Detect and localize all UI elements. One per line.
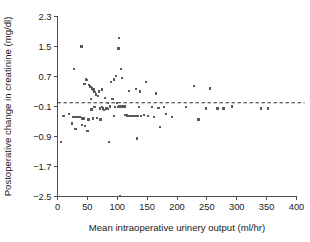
data-point (193, 85, 195, 87)
data-point (98, 90, 100, 92)
y-tick-label: −0.1 (33, 102, 51, 112)
data-point (107, 108, 109, 110)
data-point (90, 108, 92, 110)
data-point (90, 98, 92, 100)
data-point (145, 81, 147, 83)
data-point (84, 125, 86, 127)
data-point (135, 88, 137, 90)
x-tick-label: 300 (229, 202, 245, 212)
y-tick-label: 1.5 (39, 42, 52, 52)
data-point (231, 105, 233, 107)
data-point (68, 113, 70, 115)
x-tick-label: 50 (82, 202, 92, 212)
data-point (116, 102, 118, 104)
data-point (267, 107, 269, 109)
data-point (185, 106, 187, 108)
data-point (138, 106, 140, 108)
x-tick-label: 350 (259, 202, 275, 212)
data-point (118, 37, 120, 39)
data-point (155, 92, 157, 94)
data-point (87, 118, 89, 120)
data-point (113, 115, 115, 117)
data-point (143, 114, 145, 116)
data-point (136, 137, 138, 139)
data-point (123, 105, 125, 107)
data-point (109, 105, 111, 107)
data-point (86, 130, 88, 132)
x-tick-label: 250 (199, 202, 215, 212)
data-point (147, 115, 149, 117)
data-point (83, 117, 85, 119)
y-tick-label: 0.7 (39, 72, 52, 82)
data-point (101, 88, 103, 90)
data-point (86, 79, 88, 81)
data-point (139, 90, 141, 92)
data-point (222, 107, 224, 109)
data-point (117, 47, 119, 49)
data-point (80, 45, 82, 47)
data-point (92, 117, 94, 119)
data-point (108, 141, 110, 143)
data-point (153, 116, 155, 118)
data-point (99, 118, 101, 120)
data-point (140, 115, 142, 117)
data-point (79, 116, 81, 118)
data-point (113, 78, 115, 80)
data-point (71, 122, 73, 124)
data-point (159, 126, 161, 128)
chart-labels: −2.5−1.7−0.9−0.10.71.52.3050100150200250… (2, 12, 304, 233)
data-point (120, 68, 122, 70)
data-point (74, 128, 76, 130)
data-point (171, 116, 173, 118)
x-axis-title: Mean intraoperative urinery output (ml/h… (89, 222, 266, 233)
scatter-chart-figure: −2.5−1.7−0.9−0.10.71.52.3050100150200250… (0, 0, 310, 242)
data-point (151, 106, 153, 108)
data-point (260, 107, 262, 109)
x-tick-label: 200 (169, 202, 185, 212)
data-point (114, 106, 116, 108)
x-tick-label: 400 (289, 202, 305, 212)
data-point (110, 81, 112, 83)
data-point (93, 106, 95, 108)
chart-canvas: −2.5−1.7−0.9−0.10.71.52.3050100150200250… (0, 0, 310, 242)
data-point (94, 91, 96, 93)
data-point (60, 141, 62, 143)
data-point (97, 95, 99, 97)
data-point (205, 107, 207, 109)
y-tick-label: −2.5 (33, 192, 51, 202)
data-point (119, 195, 121, 197)
data-point (73, 68, 75, 70)
data-points-layer (60, 37, 269, 197)
data-point (216, 107, 218, 109)
data-point (165, 113, 167, 115)
data-point (62, 115, 64, 117)
data-point (104, 97, 106, 99)
data-point (158, 107, 160, 109)
data-point (127, 115, 129, 117)
y-tick-label: −0.9 (33, 132, 51, 142)
data-point (136, 115, 138, 117)
data-point (197, 118, 199, 120)
x-tick-label: 100 (109, 202, 125, 212)
data-point (72, 116, 74, 118)
x-tick-label: 150 (139, 202, 155, 212)
data-point (103, 109, 105, 111)
x-tick-label: 0 (55, 202, 60, 212)
y-tick-label: −1.7 (33, 162, 51, 172)
data-point (107, 102, 109, 104)
data-point (83, 83, 85, 85)
data-point (115, 75, 117, 77)
data-point (96, 117, 98, 119)
data-point (121, 77, 123, 79)
data-point (209, 87, 211, 89)
data-point (81, 124, 83, 126)
data-point (163, 106, 165, 108)
data-point (111, 98, 113, 100)
y-tick-label: 2.3 (39, 12, 52, 22)
data-point (128, 90, 130, 92)
y-axis-title: Postoperative change in creatinine (mg/d… (2, 17, 13, 197)
